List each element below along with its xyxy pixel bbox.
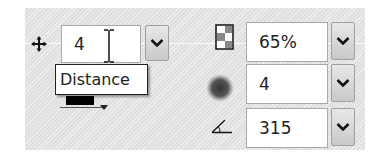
chevron-down-icon bbox=[337, 79, 350, 88]
distance-tooltip: Distance bbox=[55, 64, 148, 95]
distance-input[interactable]: 4 bbox=[61, 25, 141, 63]
angle-value: 315 bbox=[259, 118, 291, 138]
angle-dropdown-button[interactable] bbox=[331, 108, 355, 146]
distance-dropdown-button[interactable] bbox=[145, 25, 169, 61]
blur-size-icon bbox=[205, 73, 235, 103]
size-value: 4 bbox=[259, 74, 270, 94]
opacity-input[interactable]: 65% bbox=[246, 22, 328, 62]
opacity-value: 65% bbox=[259, 32, 297, 52]
angle-input[interactable]: 315 bbox=[246, 108, 328, 148]
opacity-dropdown-button[interactable] bbox=[331, 22, 355, 60]
chevron-down-icon bbox=[337, 123, 350, 132]
chevron-down-icon bbox=[151, 39, 164, 48]
shadow-color-swatch[interactable] bbox=[66, 96, 94, 105]
text-cursor-icon bbox=[102, 29, 116, 63]
angle-icon bbox=[211, 118, 233, 134]
size-input[interactable]: 4 bbox=[246, 64, 328, 104]
chevron-down-icon bbox=[337, 37, 350, 46]
color-dropdown-arrow-icon[interactable] bbox=[100, 105, 108, 110]
distance-value: 4 bbox=[74, 34, 85, 54]
size-dropdown-button[interactable] bbox=[331, 64, 355, 102]
opacity-checker-icon bbox=[215, 24, 234, 50]
move-icon bbox=[31, 36, 47, 52]
